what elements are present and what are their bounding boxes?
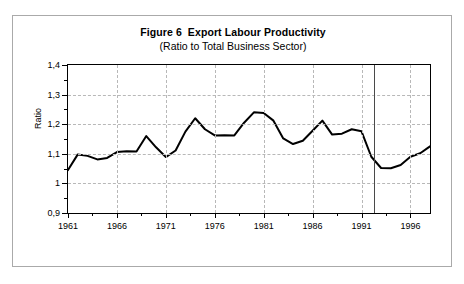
y-axis-tick (62, 154, 68, 155)
x-axis-minor-tick (239, 213, 240, 216)
figure-title-block: Figure 6 Export Labour Productivity (Rat… (13, 26, 453, 52)
x-gridline (410, 65, 411, 213)
y-axis-tick-label: 1,2 (47, 119, 60, 129)
figure-subtitle: (Ratio to Total Business Sector) (13, 40, 453, 52)
figure-frame: Figure 6 Export Labour Productivity (Rat… (12, 15, 452, 267)
y-gridline (68, 154, 430, 155)
y-axis-minor-tick (64, 169, 68, 170)
x-gridline (264, 65, 265, 213)
x-axis-minor-tick (337, 213, 338, 216)
y-gridline (68, 183, 430, 184)
x-axis-tick-label: 1976 (205, 221, 225, 231)
x-axis-tick-label: 1996 (400, 221, 420, 231)
y-axis-tick (62, 124, 68, 125)
x-gridline (313, 65, 314, 213)
x-gridline (117, 65, 118, 213)
x-axis-tick-label: 1981 (254, 221, 274, 231)
y-axis-minor-tick (64, 139, 68, 140)
x-axis-tick-label: 1991 (351, 221, 371, 231)
page-title: Figure 6 Export Labour Productivity (13, 26, 453, 38)
y-axis-tick-label: 1,3 (47, 90, 60, 100)
x-axis-tick (362, 213, 363, 218)
y-axis-minor-tick (64, 198, 68, 199)
x-axis-tick (264, 213, 265, 218)
x-axis-minor-tick (92, 213, 93, 216)
x-axis-tick-label: 1986 (303, 221, 323, 231)
x-axis-minor-tick (141, 213, 142, 216)
x-axis-minor-tick (190, 213, 191, 216)
y-axis-title: Ratio (33, 108, 43, 129)
y-axis-tick-label: 1,1 (47, 149, 60, 159)
y-axis-minor-tick (64, 109, 68, 110)
forecast-divider-line (374, 65, 375, 213)
y-gridline (68, 124, 430, 125)
x-axis-tick (313, 213, 314, 218)
x-axis-tick-label: 1961 (58, 221, 78, 231)
x-axis-minor-tick (386, 213, 387, 216)
x-axis-tick-label: 1966 (107, 221, 127, 231)
series-line-export-labour-productivity (68, 112, 430, 170)
x-axis-tick (215, 213, 216, 218)
y-axis-tick-label: 1 (55, 178, 60, 188)
y-gridline (68, 95, 430, 96)
y-axis-tick-label: 0,9 (47, 208, 60, 218)
x-axis-minor-tick (288, 213, 289, 216)
y-axis-tick (62, 95, 68, 96)
x-axis-tick (410, 213, 411, 218)
x-axis-tick-label: 1971 (156, 221, 176, 231)
y-axis-tick (62, 65, 68, 66)
x-gridline (215, 65, 216, 213)
series-line-chart (68, 65, 430, 213)
y-axis-tick (62, 183, 68, 184)
x-axis-tick (117, 213, 118, 218)
y-axis-tick-label: 1,4 (47, 60, 60, 70)
x-gridline (166, 65, 167, 213)
plot-area: 1,41,31,21,110,9196119661971197619811986… (67, 64, 431, 214)
x-gridline (362, 65, 363, 213)
y-axis-minor-tick (64, 80, 68, 81)
x-axis-tick (68, 213, 69, 218)
x-axis-tick (166, 213, 167, 218)
